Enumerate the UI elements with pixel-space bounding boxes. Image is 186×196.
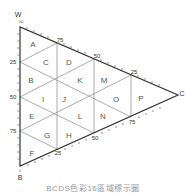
region-d: D: [66, 58, 72, 67]
left-tick-25: 25: [10, 59, 17, 65]
region-a: A: [30, 40, 36, 49]
grid-line: [20, 43, 57, 62]
bottom-tick-75: 75: [129, 119, 136, 125]
bottom-tick-25: 25: [55, 150, 62, 156]
top-tick-50: 50: [94, 53, 101, 59]
vertex-c-label: C: [179, 90, 184, 97]
left-tick-50: 50: [10, 94, 17, 100]
top-tick-75: 75: [57, 37, 64, 43]
region-p: P: [138, 94, 143, 103]
region-k: K: [77, 76, 83, 85]
region-b: B: [28, 76, 33, 85]
region-m: M: [101, 76, 108, 85]
vertex-w-label: W: [15, 11, 22, 18]
region-l: L: [78, 112, 83, 121]
region-f: F: [30, 149, 35, 158]
region-c: C: [43, 58, 49, 67]
region-n: N: [100, 112, 106, 121]
region-g: G: [44, 131, 50, 140]
region-i: I: [42, 95, 44, 104]
grid-line: [20, 131, 57, 149]
bottom-tick-50: 50: [92, 135, 99, 141]
vertex-b-label: B: [18, 174, 23, 181]
region-h: H: [66, 131, 72, 140]
vertex-b-value: 0: [19, 169, 21, 173]
bcds-triangle-diagram: W 100 B 0 C 25 50 75 75 50 25 25 50 75 A…: [0, 0, 186, 196]
left-tick-75: 75: [10, 128, 17, 134]
region-j: J: [62, 95, 66, 104]
region-o: O: [113, 95, 119, 104]
top-tick-25: 25: [131, 69, 138, 75]
diagram-caption: BCDS色彩16區域標示圖: [0, 182, 186, 193]
region-e: E: [29, 112, 34, 121]
grid-line: [20, 62, 131, 117]
vertex-w-value: 100: [18, 20, 23, 24]
